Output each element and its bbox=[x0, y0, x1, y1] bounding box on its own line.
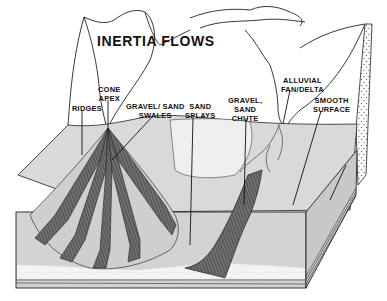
stratified-edge bbox=[356, 24, 372, 185]
label-sand-splays: SAND SPLAYS bbox=[185, 102, 216, 120]
label-cone-apex: CONE APEX bbox=[98, 85, 120, 103]
label-gravel-sand-chute: GRAVEL, SAND CHUTE bbox=[228, 96, 262, 123]
label-smooth-surface: SMOOTH SURFACE bbox=[313, 96, 350, 114]
alluvial-fan-area bbox=[170, 119, 252, 178]
diagram-title: INERTIA FLOWS bbox=[97, 33, 215, 49]
label-ridges: RIDGES bbox=[72, 104, 102, 113]
label-gravel-sand-swales: GRAVEL/ SAND SWALES bbox=[126, 102, 185, 120]
label-alluvial-fan-delta: ALLUVIAL FAN/DELTA bbox=[281, 76, 324, 94]
